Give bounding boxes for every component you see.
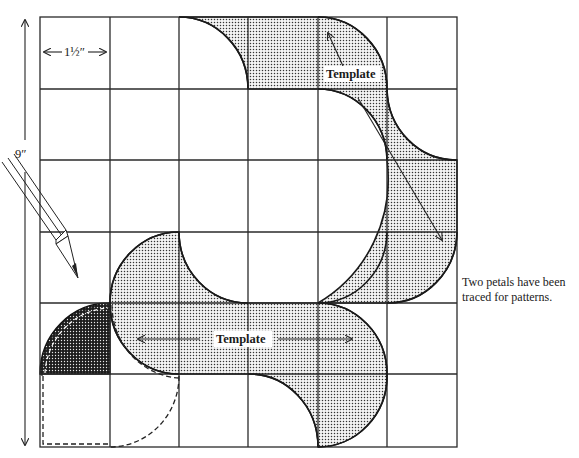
template-label-middle: Template — [216, 332, 266, 346]
cell-width-label: 1½″ — [64, 45, 85, 59]
note-text: Two petals have been traced for patterns… — [462, 275, 565, 304]
note-line-2: traced for patterns. — [462, 290, 552, 304]
height-dimension: 9″ — [15, 20, 26, 445]
height-label: 9″ — [15, 147, 26, 161]
petal-pattern-diagram: 9″ 1½″ Template Template Two petals have… — [0, 0, 579, 458]
note-line-1: Two petals have been — [462, 275, 565, 289]
traced-petal-dark — [40, 303, 110, 374]
template-label-top: Template — [326, 67, 376, 81]
grid — [40, 17, 457, 447]
cell-width-dimension: 1½″ — [44, 45, 106, 59]
